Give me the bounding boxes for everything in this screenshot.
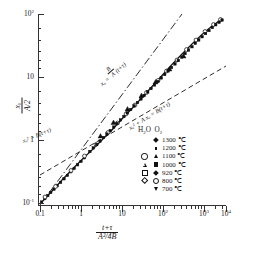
legend-row[interactable]: 920 ℃ [138,169,222,177]
x-tick-minor [150,206,151,209]
legend-row[interactable]: 1100 ℃ [138,152,222,160]
x-tick-minor [75,206,76,209]
x-axis-title-numerator: t+τ [96,224,118,232]
y-tick-minor [38,194,41,195]
y-tick-minor [38,40,41,41]
x-tick-label-100: 102 [146,210,180,217]
y-tick-10 [38,77,44,78]
x-tick-minor [154,206,155,209]
y-axis-title-numerator: xₒ [13,98,22,113]
x-tick-minor [92,206,93,209]
legend-header: H2O O2 [138,126,222,134]
legend-row[interactable]: 700 ℃ [138,185,222,193]
y-tick-minor [38,60,41,61]
y-tick-minor [38,114,41,115]
y-tick-minor [38,68,41,69]
y-axis-title-denominator: A/2 [22,98,32,113]
legend-o2-marker-square-fill [151,162,161,167]
y-axis-title: xₒ A/2 [13,76,32,136]
legend-row[interactable]: 800 ℃ [138,177,222,185]
x-tick-minor [99,206,100,209]
legend-o2-marker-circle-open [151,178,161,184]
x-tick-minor [181,206,182,209]
y-tick-minor [38,51,41,52]
x-tick-minor [109,206,110,209]
x-axis-title: t+τ A²/4B [96,224,118,242]
legend-h2o-marker-triangle-open [138,163,151,167]
x-tick-minor [145,206,146,209]
legend: H2O O2 1300 ℃ 1200 ℃ 1100 ℃ 1000 ℃ 920 [138,126,222,193]
y-tick-1 [38,140,44,141]
y-tick-minor [38,103,41,104]
x-tick-label-10000: 104 [209,210,243,217]
legend-o2-marker-small-square-fill [151,147,161,150]
legend-label: 1100 ℃ [161,152,185,160]
x-axis-title-denominator: A²/4B [96,232,118,241]
legend-o2-marker-triangle-down-fill [151,187,161,191]
figure-oxidation-kinetics-plot: 102 10 1 10-1 0.1 1 10 102 103 104 xₒ A/… [0,0,258,257]
x-tick-minor [116,206,117,209]
y-tick-minor [38,186,41,187]
x-tick-minor [58,206,59,209]
legend-label: 800 ℃ [161,177,182,185]
legend-h2o-marker-diamond-open [138,178,151,183]
legend-label: 1200 ℃ [161,144,186,152]
x-tick-label-1: 1 [64,210,98,217]
x-tick-minor [72,206,73,209]
y-tick-label-100: 102 [24,10,34,17]
legend-row[interactable]: 1300 ℃ [138,136,222,144]
x-tick-minor [68,206,69,209]
x-tick-label-0.1: 0.1 [23,210,57,217]
legend-o2-marker-triangle-fill [151,154,161,158]
legend-header-o2: O2 [153,126,162,134]
legend-label: 920 ℃ [161,169,182,177]
y-tick-0.1 [38,203,44,204]
y-tick-minor [38,123,41,124]
y-tick-minor [38,177,41,178]
x-tick-minor [191,206,192,209]
x-tick-minor [174,206,175,209]
x-tick-minor [104,206,105,209]
y-tick-minor [38,166,41,167]
y-tick-minor [38,28,41,29]
legend-o2-marker-diamond-fill [151,171,161,175]
x-tick-minor [51,206,52,209]
legend-label: 700 ℃ [161,185,182,193]
y-tick-label-0.1: 10-1 [22,199,34,206]
legend-label: 1300 ℃ [161,136,186,144]
legend-label: 1000 ℃ [161,161,186,169]
x-tick-minor [140,206,141,209]
x-tick-minor [113,206,114,209]
y-tick-minor [38,91,41,92]
x-tick-minor [63,206,64,209]
legend-h2o-marker-circle-open [138,153,151,159]
legend-row[interactable]: 1000 ℃ [138,161,222,169]
x-tick-minor [215,206,216,209]
legend-row[interactable]: 1200 ℃ [138,144,222,152]
x-tick-minor [186,206,187,209]
y-tick-100 [38,14,44,15]
legend-header-h2o: H2O [138,126,151,134]
legend-h2o-marker-square-open [138,170,151,176]
x-tick-label-10: 10 [105,210,139,217]
x-tick-minor [195,206,196,209]
x-tick-minor [133,206,134,209]
y-tick-minor [38,154,41,155]
legend-o2-marker-diamond-fill [151,138,161,142]
